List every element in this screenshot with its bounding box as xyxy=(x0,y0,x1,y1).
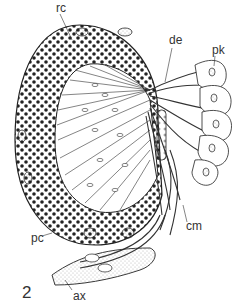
label-cm: cm xyxy=(186,220,202,232)
label-pc: pc xyxy=(31,232,44,244)
label-rc: rc xyxy=(56,2,66,14)
label-de: de xyxy=(169,34,182,46)
label-ax: ax xyxy=(73,290,86,302)
organ-drawing xyxy=(0,0,241,306)
label-pk: pk xyxy=(212,44,225,56)
figure-number: 2 xyxy=(22,284,31,301)
figure-illustration: rc de pk cm pc ax 2 xyxy=(0,0,241,306)
